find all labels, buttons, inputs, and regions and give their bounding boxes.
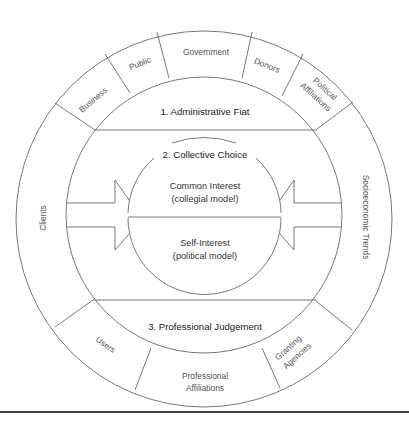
collective-choice-arc-left [128,158,154,213]
middle-ring-circle [66,77,342,353]
political-model-label: (political model) [173,251,237,261]
segment-professional-affiliations-1: Professional [182,371,228,381]
segment-business: Business [77,85,109,115]
professional-judgement-label: 3. Professional Judgement [148,321,262,332]
bottom-rule [0,411,409,413]
collegial-model-label: (collegial model) [172,194,239,204]
segment-socioeconomic-trends: Socioeconomic Trends [361,175,371,260]
segment-government: Government [183,47,230,57]
segment-professional-affiliations-2: Affiliations [186,383,224,393]
administrative-fiat-label: 1. Administrative Fiat [160,106,249,117]
self-interest-label: Self-Interest [180,238,230,248]
collective-choice-arc-right [256,158,281,213]
segment-users: Users [94,334,118,355]
common-interest-label: Common Interest [170,181,241,191]
right-arrow [280,180,341,250]
left-arrow [67,180,129,250]
collective-choice-label: 2. Collective Choice [163,149,248,160]
segment-clients: Clients [38,205,48,231]
segment-public: Public [127,54,152,72]
collective-choice-arc-top [172,138,236,144]
segment-donors: Donors [253,56,282,75]
outer-ring-circle [16,31,392,407]
governance-diagram: Business Public Government Donors Politi… [0,0,409,426]
